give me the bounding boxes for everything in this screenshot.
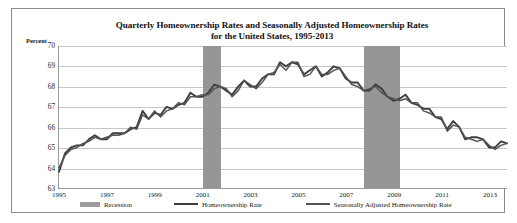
legend-label-seasonally-adjusted-rate: Seasonally Adjusted Homeownership Rate <box>334 201 452 208</box>
plot-area: 7069686766656463 19951997199920012003200… <box>58 46 507 189</box>
legend-label-recession: Recession <box>104 201 132 208</box>
y-axis-tick-label: 68 <box>48 83 55 91</box>
series-lines <box>59 46 507 188</box>
y-axis-label: Percent <box>26 37 47 44</box>
legend-item-seasonally-adjusted-rate: Seasonally Adjusted Homeownership Rate <box>306 201 452 208</box>
y-axis-tick-label: 70 <box>48 42 55 50</box>
legend-item-recession: Recession <box>80 201 132 208</box>
y-axis-tick-label: 64 <box>48 165 55 173</box>
homeownership-rate-line-icon <box>174 203 198 205</box>
chart-figure: Quarterly Homeownership Rates and Season… <box>11 8 505 213</box>
series-line <box>59 62 507 167</box>
chart-title: Quarterly Homeownership Rates and Season… <box>52 20 492 42</box>
recession-swatch-icon <box>80 202 100 207</box>
y-axis-tick-label: 66 <box>48 124 55 132</box>
y-axis-tick-label: 65 <box>48 144 55 152</box>
chart-title-line-1: Quarterly Homeownership Rates and Season… <box>116 20 428 30</box>
y-axis-tick-label: 67 <box>48 103 55 111</box>
y-axis-tick-label: 69 <box>48 62 55 70</box>
chart-title-line-2: for the United States, 1995-2013 <box>52 31 492 42</box>
legend-label-homeownership-rate: Homeownership Rate <box>202 201 262 208</box>
chart-legend: Recession Homeownership Rate Seasonally … <box>58 197 507 211</box>
legend-item-homeownership-rate: Homeownership Rate <box>174 201 262 208</box>
seasonally-adjusted-rate-line-icon <box>306 203 330 205</box>
